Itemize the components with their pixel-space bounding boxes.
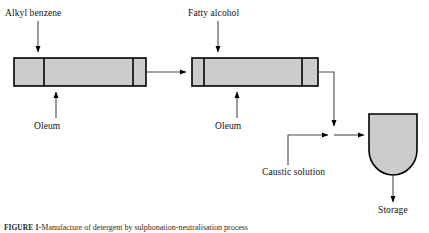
figure-caption: FIGURE 1-Manufacture of detergent by sul… xyxy=(4,223,424,232)
neutralisation-storage-tank xyxy=(369,114,417,175)
label-storage: Storage xyxy=(378,205,408,216)
label-fatty-alcohol: Fatty alcohol xyxy=(188,8,239,19)
label-oleum-1: Oleum xyxy=(34,121,60,132)
label-alkyl-benzene: Alkyl benzene xyxy=(5,8,61,19)
caustic-solution-stream xyxy=(288,135,328,165)
flow-diagram-canvas xyxy=(0,0,429,233)
process-flow-figure: Alkyl benzene Fatty alcohol Oleum Oleum … xyxy=(0,0,429,233)
label-caustic-solution: Caustic solution xyxy=(262,167,325,178)
figure-caption-number: FIGURE 1- xyxy=(4,223,41,232)
reactor2-to-tank-stream xyxy=(318,72,334,126)
sulphonation-reactor-1 xyxy=(14,58,146,86)
sulphonation-reactor-2 xyxy=(192,58,318,86)
figure-caption-text: Manufacture of detergent by sulphonation… xyxy=(41,223,248,232)
label-oleum-2: Oleum xyxy=(215,121,241,132)
